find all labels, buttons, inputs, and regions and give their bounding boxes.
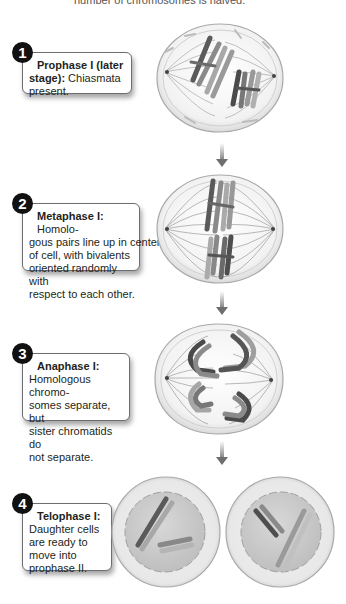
anaphase-cell-illustration bbox=[153, 322, 285, 436]
stage-description-line: not separate. bbox=[29, 451, 125, 464]
stage-description-line: are ready to bbox=[29, 536, 107, 549]
stage-number-badge: 2 bbox=[12, 193, 33, 214]
stage-description-line: Daughter cells bbox=[29, 523, 107, 536]
stage-number-badge: 3 bbox=[12, 343, 33, 364]
stage-title-cont: stage): bbox=[29, 72, 65, 84]
stage-description-line: Homologous chromo- bbox=[29, 373, 125, 399]
stage-title: Telophase I: bbox=[37, 510, 100, 522]
stage-number-badge: 4 bbox=[12, 493, 33, 514]
telophase-daughter-cell-right bbox=[224, 475, 336, 589]
stage-4-callout: 4 Telophase I: Daughter cells are ready … bbox=[22, 503, 112, 571]
top-caption: number of chromosomes is halved. bbox=[74, 0, 334, 6]
telophase-daughter-cell-left bbox=[110, 475, 222, 589]
down-arrow-icon bbox=[216, 291, 222, 315]
stage-title: Anaphase I: bbox=[37, 360, 99, 372]
stage-description-line: sister chromatids do bbox=[29, 425, 125, 451]
stage-description-line: somes separate, but bbox=[29, 399, 125, 425]
stage-3-callout: 3 Anaphase I: Homologous chromo- somes s… bbox=[22, 353, 130, 421]
stage-description-line: of cell, with bivalents bbox=[29, 249, 135, 262]
stage-title: Metaphase I: bbox=[37, 210, 104, 222]
stage-description-cont: present. bbox=[29, 85, 127, 98]
stage-description-line: oriented randomly with bbox=[29, 262, 135, 288]
stage-2-callout: 2 Metaphase I: Homolo- gous pairs line u… bbox=[22, 203, 140, 271]
stage-description-line: prophase II. bbox=[29, 562, 107, 575]
metaphase-cell-illustration bbox=[155, 173, 285, 285]
stage-title: Prophase I (later bbox=[37, 59, 123, 71]
down-arrow-icon bbox=[216, 143, 222, 167]
down-arrow-icon bbox=[216, 441, 222, 465]
stage-description: Chiasmata bbox=[65, 72, 121, 84]
stage-description: Homolo- bbox=[37, 223, 79, 235]
prophase-cell-illustration bbox=[155, 22, 285, 134]
stage-description-line: move into bbox=[29, 549, 107, 562]
stage-number-badge: 1 bbox=[12, 42, 33, 63]
stage-description-line: respect to each other. bbox=[29, 288, 135, 301]
stage-1-callout: 1 Prophase I (later stage): Chiasmata pr… bbox=[22, 52, 132, 94]
stage-description-line: gous pairs line up in center bbox=[29, 236, 135, 249]
